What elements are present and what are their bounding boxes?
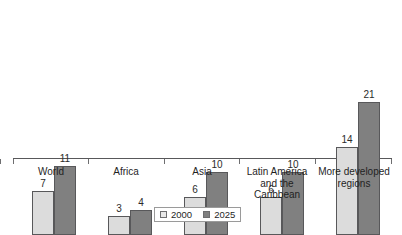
x-axis-tick xyxy=(13,159,14,164)
bar-latin-america-2000[interactable] xyxy=(260,197,282,235)
bar-wrap: 6 xyxy=(260,197,282,235)
x-axis-label-line: regions xyxy=(313,178,395,190)
x-axis-label-africa: Africa xyxy=(86,166,166,178)
x-axis-tick xyxy=(391,159,392,164)
x-axis-label-more-developed-regions: More developed regions xyxy=(313,166,395,189)
bar-chart: 7 11 3 4 6 xyxy=(0,0,402,235)
x-axis-label-line: Africa xyxy=(86,166,166,178)
x-axis-label-line: More developed xyxy=(313,166,395,178)
legend-item-2000[interactable]: 2000 xyxy=(160,210,192,220)
x-axis-label-line: Asia xyxy=(162,166,242,178)
legend-item-2025[interactable]: 2025 xyxy=(203,210,235,220)
bar-world-2000[interactable] xyxy=(32,191,54,235)
x-axis-tick xyxy=(239,159,240,164)
bar-africa-2000[interactable] xyxy=(108,216,130,235)
x-axis-label-asia: Asia xyxy=(162,166,242,178)
x-axis-tick xyxy=(315,159,316,164)
bar-africa-2025[interactable] xyxy=(130,210,152,235)
bar-more-developed-regions-2000[interactable] xyxy=(336,147,358,235)
legend-label: 2025 xyxy=(214,210,235,220)
x-axis-label-latin-america: Latin America and the Caribbean xyxy=(237,166,317,201)
x-axis-label-world: World xyxy=(11,166,91,178)
x-axis-label-line: and the xyxy=(237,178,317,190)
bar-wrap: 14 xyxy=(336,147,358,235)
bar-wrap: 10 xyxy=(206,172,228,235)
bar-value-label: 4 xyxy=(126,197,156,208)
x-axis-label-line: World xyxy=(11,166,91,178)
bar-asia-2025[interactable] xyxy=(206,172,228,235)
bar-wrap: 3 xyxy=(108,216,130,235)
chart-legend: 2000 2025 xyxy=(154,207,241,222)
legend-label: 2000 xyxy=(171,210,192,220)
x-axis-label-line: Caribbean xyxy=(237,189,317,201)
bar-wrap: 4 xyxy=(130,210,152,235)
bar-value-label: 11 xyxy=(50,153,80,164)
dark-gray-swatch-icon xyxy=(203,211,210,218)
x-axis-tick xyxy=(164,159,165,164)
bar-wrap: 7 xyxy=(32,191,54,235)
light-gray-swatch-icon xyxy=(160,211,167,218)
x-axis-tick xyxy=(88,159,89,164)
x-axis-label-line: Latin America xyxy=(237,166,317,178)
bar-value-label: 21 xyxy=(354,89,384,100)
x-axis-tick xyxy=(0,159,1,164)
